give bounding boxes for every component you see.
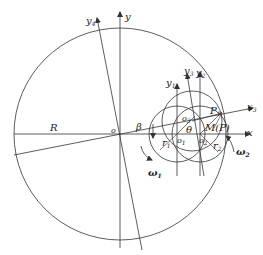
label-r2: r2	[213, 140, 222, 152]
label-x: x	[247, 127, 253, 138]
label-beta: β	[135, 121, 142, 132]
label-theta: θ	[186, 124, 192, 135]
label-R: R	[49, 122, 58, 133]
label-origin: o	[111, 126, 116, 135]
label-o2: o2	[199, 136, 208, 146]
label-y4: y4	[85, 15, 96, 27]
omega1-arc	[141, 146, 152, 160]
label-o1: o1	[177, 136, 186, 146]
label-y3: y3	[183, 65, 194, 77]
label-y1: y1	[165, 77, 175, 89]
omega2-arc	[226, 136, 234, 152]
label-omega1: ω1	[148, 167, 162, 179]
label-y: y	[124, 11, 131, 22]
label-o3: o3	[182, 114, 191, 124]
label-omega2: ω2	[236, 146, 250, 158]
mechanism-diagram: y y4 y1 y3 y2 x x3 R o β θ ω1 ω2 r1 r2 o…	[0, 0, 263, 255]
label-r1: r1	[162, 137, 171, 149]
label-mp: M(P)	[204, 122, 230, 133]
label-x3: x3	[247, 101, 257, 113]
